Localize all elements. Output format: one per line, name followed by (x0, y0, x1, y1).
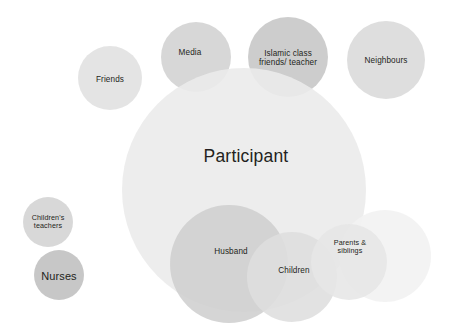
social-network-diagram: FriendsMediaIslamic class friends/ teach… (0, 0, 452, 328)
circle-layer (0, 0, 452, 328)
circle-friends[interactable] (78, 46, 142, 110)
circle-neighbours[interactable] (347, 21, 425, 99)
circle-parents-siblings[interactable] (311, 224, 387, 300)
circle-childrens-teachers[interactable] (23, 197, 73, 247)
circle-nurses[interactable] (34, 250, 84, 300)
